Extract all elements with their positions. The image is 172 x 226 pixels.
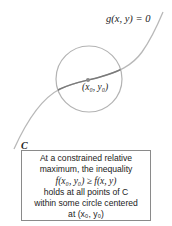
caption-line-6: at (x₀, y₀)	[22, 209, 150, 220]
caption-line-2: maximum, the inequality	[22, 164, 150, 175]
point-label: (x₀, y₀)	[82, 82, 108, 92]
caption-inequality: f(x₀, y₀) ≥ f(x, y)	[22, 176, 150, 187]
caption-box: At a constrained relative maximum, the i…	[21, 150, 151, 221]
caption-line-1: At a constrained relative	[22, 153, 150, 164]
caption-line-4: holds at all points of C	[22, 187, 150, 198]
caption-line-5: within some circle centered	[22, 198, 150, 209]
constraint-equation-label: g(x, y) = 0	[106, 13, 150, 24]
